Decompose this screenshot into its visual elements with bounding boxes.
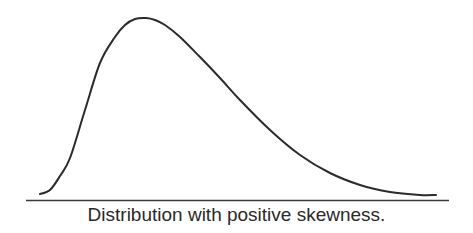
skewness-figure: Distribution with positive skewness.: [0, 0, 473, 233]
density-plot: [0, 0, 473, 205]
density-curve: [40, 18, 436, 195]
figure-caption: Distribution with positive skewness.: [0, 204, 473, 226]
